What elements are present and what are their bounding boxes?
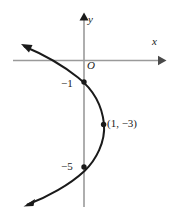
vertex-point-label: (1, −3) <box>107 118 137 129</box>
graph-figure: y x O −1 −5 (1, −3) <box>0 0 171 218</box>
point-vertex <box>101 122 106 127</box>
x-axis-arrowhead <box>158 56 167 65</box>
y-axis-label: y <box>88 14 93 25</box>
origin-label: O <box>87 60 95 71</box>
curve-lower-arrowhead <box>24 199 36 207</box>
y-tick-label-minus-5: −5 <box>61 161 73 172</box>
x-axis-label: x <box>152 36 157 47</box>
coordinate-plane-svg <box>0 0 171 218</box>
point-y-intercept-minus1 <box>81 79 86 84</box>
curve-upper-arrowhead <box>21 44 33 53</box>
point-y-intercept-minus5 <box>81 164 86 169</box>
y-tick-label-minus-1: −1 <box>61 78 73 89</box>
